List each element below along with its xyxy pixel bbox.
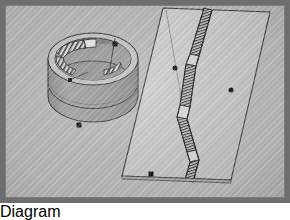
vertex-panel-right	[229, 88, 234, 93]
vertex-panel-upper	[173, 66, 178, 71]
geometry-layer	[0, 0, 290, 203]
modeling-viewport[interactable]: 3D modeling viewport Axonometric CAD vie…	[0, 0, 290, 203]
vertex-panel-lower	[149, 172, 154, 177]
vertex-cylinder-base	[77, 123, 82, 128]
unrolled-panel-object	[122, 8, 270, 183]
scene-canvas[interactable]	[0, 0, 290, 203]
cylinder-object	[48, 33, 138, 122]
vertex-cylinder-top	[113, 42, 118, 47]
vertex-cylinder-inner	[68, 78, 72, 82]
stair-landing-upper	[84, 39, 96, 48]
